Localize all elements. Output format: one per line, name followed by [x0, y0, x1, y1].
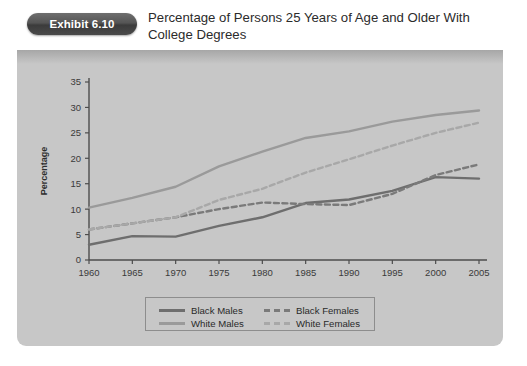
- x-tick-label: 1965: [122, 267, 143, 278]
- legend-swatch-black-males: [159, 309, 185, 312]
- legend-swatch-white-females: [264, 322, 290, 325]
- exhibit-header: Exhibit 6.10 Percentage of Persons 25 Ye…: [0, 0, 527, 50]
- y-axis-title: Percentage: [39, 147, 49, 196]
- x-tick-label: 1980: [252, 267, 273, 278]
- x-axis: 1960196519701975198019851990199520002005: [78, 260, 489, 278]
- x-tick-label: 1960: [78, 267, 99, 278]
- series-black-males: [89, 177, 479, 245]
- page-title: Percentage of Persons 25 Years of Age an…: [148, 9, 508, 43]
- x-tick-label: 1995: [382, 267, 403, 278]
- legend-label-black-females: Black Females: [296, 305, 359, 316]
- x-tick-label: 2000: [425, 267, 446, 278]
- exhibit-badge: Exhibit 6.10: [27, 13, 137, 35]
- legend-item-white-males: White Males: [159, 316, 244, 331]
- x-tick-label: 1975: [208, 267, 229, 278]
- y-tick-label: 25: [70, 127, 81, 138]
- x-tick-label: 2005: [468, 267, 489, 278]
- y-tick-label: 5: [76, 229, 81, 240]
- y-tick-label: 10: [70, 204, 81, 215]
- series-white-males: [89, 110, 479, 207]
- y-tick-label: 0: [76, 254, 81, 265]
- legend-swatch-black-females: [264, 309, 290, 312]
- series-black-females: [89, 164, 479, 229]
- series-white-females: [89, 123, 479, 230]
- y-tick-label: 35: [70, 76, 81, 87]
- legend-label-white-females: White Females: [296, 318, 360, 329]
- y-tick-label: 20: [70, 153, 81, 164]
- legend-label-black-males: Black Males: [191, 305, 243, 316]
- y-tick-label: 30: [70, 102, 81, 113]
- x-tick-label: 1970: [165, 267, 186, 278]
- chart-panel: 05101520253035 1960196519701975198019851…: [17, 50, 503, 346]
- legend-item-white-females: White Females: [264, 316, 360, 331]
- y-axis: 05101520253035: [70, 76, 89, 265]
- x-tick-label: 1985: [295, 267, 316, 278]
- x-tick-label: 1990: [338, 267, 359, 278]
- series-lines: [89, 110, 479, 244]
- chart-legend: Black Males White Males Black Females Wh…: [145, 297, 375, 331]
- legend-swatch-white-males: [159, 322, 185, 325]
- legend-label-white-males: White Males: [191, 318, 244, 329]
- y-tick-label: 15: [70, 178, 81, 189]
